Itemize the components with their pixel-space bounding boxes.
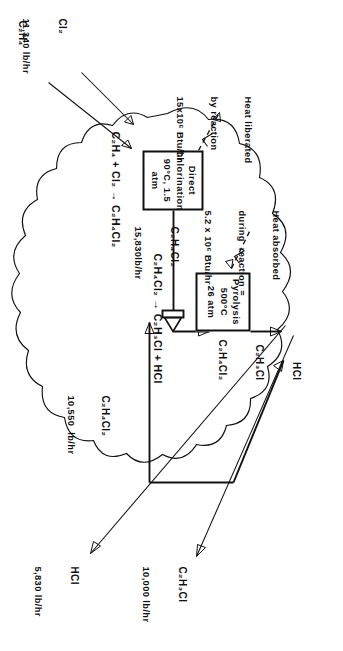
chlorination-outlet-rate: 15,830lb/hr [131, 226, 142, 279]
mixer-junction-symbol [162, 310, 183, 331]
recycle-rate: 10,550 lb/hr [64, 395, 75, 454]
chlorination-outlet-species: C₂H₄Cl₂ [166, 226, 178, 279]
product-vcm-rate: 10,000 lb/hr [139, 566, 150, 622]
note-heat-liberated: Heat liberated by reaction 15x10⁶ Btu/hr [150, 96, 275, 163]
feed-ethylene-species: C₂H₄ [14, 20, 26, 70]
flowsheet: Direct Chlorination 90°C, 1.5 atm Pyroly… [0, 0, 343, 651]
product-hcl-species: HCl [66, 566, 78, 616]
stream-line-cl2 [81, 72, 133, 124]
diagram-canvas: Direct Chlorination 90°C, 1.5 atm Pyroly… [0, 0, 343, 651]
recycle-species: C₂H₄Cl₂ [98, 395, 110, 454]
note-heat-liberated-line-1: Heat liberated [241, 96, 252, 163]
product-hcl-rate: 5,830 lb/hr [31, 566, 42, 616]
reaction-equation-pyrolysis: C₂H₄Cl₂ → C₂H₃Cl + HCl [150, 253, 163, 383]
product-vcm-species: C₂H₃Cl [174, 566, 186, 622]
arrowhead-hcl-product [90, 541, 100, 553]
stream-label-feed-ethylene: C₂H₄ 4,490 lb/hr [0, 20, 51, 70]
feed-chlorine-species: Cl₂ [54, 18, 66, 73]
unit-direct-chlorination-line-1: Direct [185, 165, 197, 194]
pyrolysis-outlet-species-2: C₂H₃Cl [252, 290, 264, 380]
stream-label-product-vcm: C₂H₃Cl 10,000 lb/hr [114, 566, 211, 622]
note-heat-absorbed-line-3: 5.2 x 10⁶ Btu/hr [201, 210, 212, 295]
note-heat-liberated-line-2: by reaction [207, 96, 218, 163]
note-heat-absorbed-line-1: Heat absorbed [269, 210, 280, 295]
stream-label-product-hcl: HCl 5,830 lb/hr [6, 566, 103, 616]
stream-label-pyrolysis-outlet: HCl C₂H₃Cl C₂H₄Cl₂ [191, 290, 325, 380]
note-heat-absorbed: Heat absorbed during reaction = 5.2 x 10… [178, 210, 303, 295]
note-heat-liberated-line-3: 15x10⁶ Btu/hr [173, 96, 184, 163]
pyrolysis-outlet-species-1: HCl [288, 290, 300, 380]
note-heat-absorbed-line-2: during reaction = [235, 210, 246, 295]
pyrolysis-outlet-species-3: C₂H₄Cl₂ [215, 290, 227, 380]
stream-label-recycle: C₂H₄Cl₂ 10,550 lb/hr [42, 395, 133, 454]
